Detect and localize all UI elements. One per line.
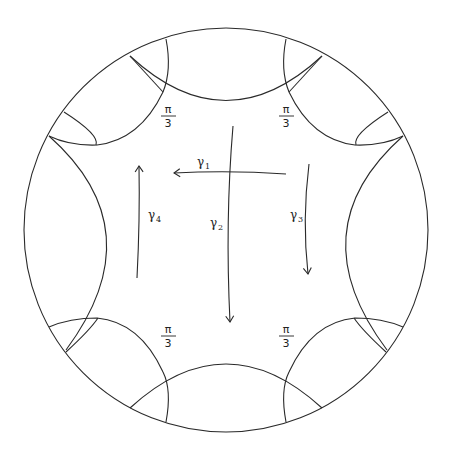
svg-text:3: 3 [165, 337, 172, 350]
svg-text:π: π [283, 323, 290, 336]
curve-gamma4 [137, 166, 139, 278]
svg-text:3: 3 [298, 215, 303, 224]
angle-label-bottom-right: π 3 [279, 323, 294, 350]
svg-text:3: 3 [165, 117, 172, 130]
svg-text:1: 1 [205, 162, 210, 171]
svg-text:γ: γ [197, 155, 204, 169]
geodesic-corner-top-right-c [289, 56, 322, 92]
angle-label-bottom-left: π 3 [161, 323, 176, 350]
geodesic-corner-bottom-right-b [354, 318, 386, 352]
geodesic-corner-bottom-right-a [284, 318, 403, 422]
angle-label-top-right: π 3 [279, 103, 294, 130]
svg-text:γ: γ [148, 208, 155, 222]
svg-text:3: 3 [283, 337, 290, 350]
geodesic-corner-top-left-b [64, 112, 96, 145]
svg-text:3: 3 [283, 117, 290, 130]
poincare-disk-diagram: γ 1 γ 2 γ 3 γ 4 π 3 π 3 π 3 π 3 [0, 0, 451, 458]
geodesic-corner-bottom-left-b [66, 318, 98, 352]
geodesic-bottom [130, 364, 322, 408]
svg-text:π: π [165, 103, 172, 116]
svg-text:π: π [283, 103, 290, 116]
disk-boundary [24, 28, 428, 432]
curve-gamma3 [305, 164, 309, 274]
label-gamma2: γ 2 [210, 216, 223, 232]
svg-text:γ: γ [290, 208, 297, 222]
geodesic-top [130, 56, 322, 101]
label-gamma1: γ 1 [197, 155, 210, 171]
geodesic-corner-top-left-a [49, 39, 168, 145]
svg-text:4: 4 [156, 215, 161, 224]
svg-text:γ: γ [210, 216, 217, 230]
angle-label-top-left: π 3 [161, 103, 176, 130]
label-gamma3: γ 3 [290, 208, 303, 224]
geodesic-corner-top-right-b [356, 112, 388, 145]
geodesic-corner-bottom-left-a [49, 318, 168, 422]
svg-text:π: π [165, 323, 172, 336]
curve-gamma2 [228, 126, 233, 322]
label-gamma4: γ 4 [148, 208, 161, 224]
svg-text:2: 2 [218, 223, 223, 232]
geodesic-corner-top-left-c [130, 56, 163, 92]
geodesic-corner-top-right-a [284, 39, 403, 145]
